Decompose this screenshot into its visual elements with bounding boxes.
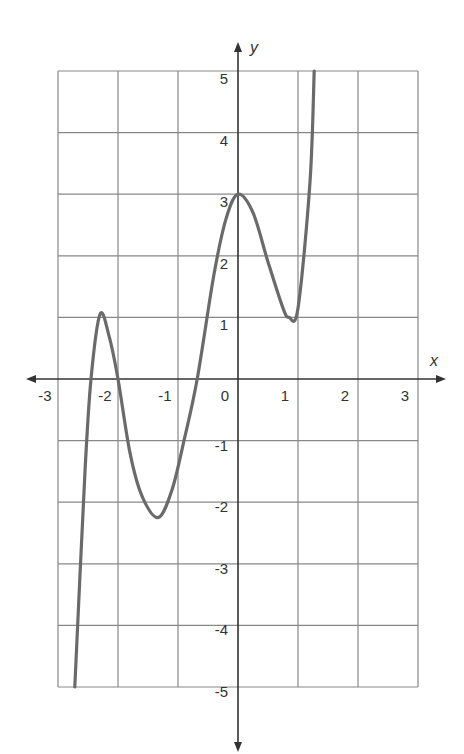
x-tick-label: -2 (98, 387, 111, 404)
y-tick-label: 2 (220, 255, 228, 272)
x-tick-label: 3 (401, 387, 409, 404)
y-tick-label: -5 (215, 683, 228, 700)
y-tick-label: 4 (220, 132, 228, 149)
y-tick-label: 3 (220, 193, 228, 210)
x-tick-label: 1 (281, 387, 289, 404)
y-axis-down-arrow-icon (234, 742, 242, 752)
y-tick-label: -1 (215, 437, 228, 454)
x-axis-left-arrow-icon (26, 375, 36, 383)
x-axis-label: x (429, 352, 439, 369)
y-tick-label: 5 (220, 70, 228, 87)
y-axis-up-arrow-icon (234, 42, 242, 52)
tick-labels: -3-2-1012354321-1-2-3-4-5 (38, 70, 409, 700)
x-tick-label: -1 (158, 387, 171, 404)
y-tick-label: -2 (215, 498, 228, 515)
x-tick-label: 2 (341, 387, 349, 404)
y-tick-label: -3 (215, 560, 228, 577)
x-tick-label: 0 (221, 387, 229, 404)
x-tick-label: -3 (38, 387, 51, 404)
y-tick-label: 1 (220, 316, 228, 333)
y-tick-label: -4 (215, 621, 228, 638)
x-axis-right-arrow-icon (436, 375, 446, 383)
chart-canvas: -3-2-1012354321-1-2-3-4-5 x y (0, 0, 464, 754)
y-axis-label: y (249, 39, 259, 56)
